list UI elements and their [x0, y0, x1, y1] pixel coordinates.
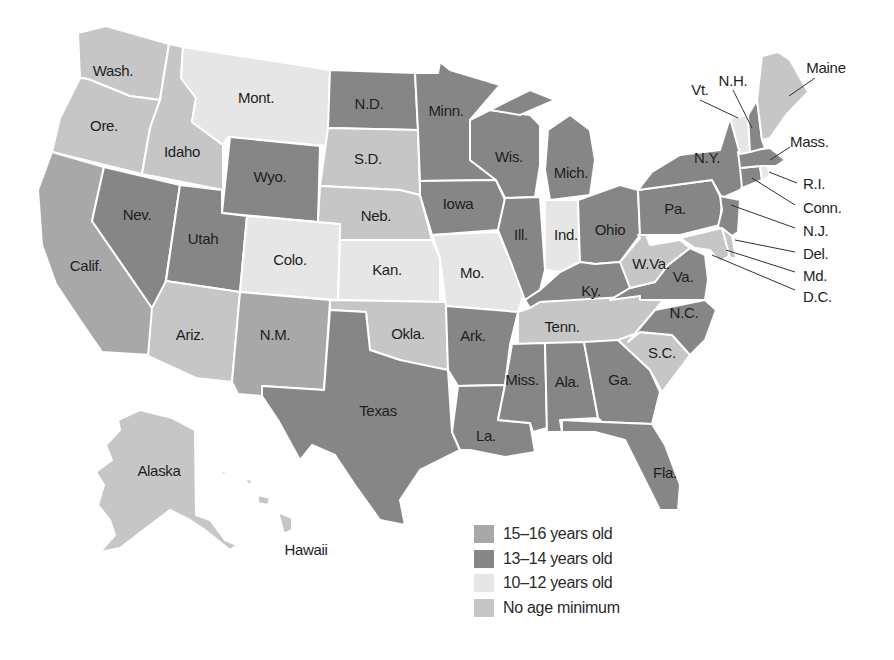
- legend-swatch: [474, 599, 494, 617]
- label-nm: N.M.: [260, 326, 290, 343]
- label-ala: Ala.: [555, 373, 580, 390]
- label-sc: S.C.: [648, 344, 676, 361]
- state-hawaii[interactable]: [220, 470, 292, 534]
- label-ore: Ore.: [90, 117, 118, 134]
- label-ny: N.Y.: [694, 149, 720, 166]
- legend: 15–16 years old 13–14 years old 10–12 ye…: [474, 522, 620, 620]
- state-conn[interactable]: [740, 166, 762, 188]
- legend-item-13-14: 13–14 years old: [474, 547, 620, 572]
- label-vt: Vt.: [691, 81, 708, 98]
- label-nd: N.D.: [355, 95, 384, 112]
- label-wyo: Wyo.: [254, 168, 287, 185]
- state-nm[interactable]: [232, 292, 330, 396]
- label-va: Va.: [673, 268, 694, 285]
- legend-swatch: [474, 525, 494, 543]
- label-nc: N.C.: [670, 304, 699, 321]
- label-minn: Minn.: [428, 102, 463, 119]
- label-mich: Mich.: [554, 164, 588, 181]
- label-ind: Ind.: [554, 226, 578, 243]
- label-wash: Wash.: [93, 62, 133, 79]
- label-pa: Pa.: [664, 200, 686, 217]
- legend-label: 13–14 years old: [503, 550, 612, 568]
- label-maine: Maine: [806, 59, 845, 76]
- label-del: Del.: [803, 245, 828, 262]
- label-idaho: Idaho: [164, 143, 200, 160]
- label-iowa: Iowa: [443, 195, 474, 212]
- label-ariz: Ariz.: [176, 326, 205, 343]
- label-texas: Texas: [359, 402, 397, 419]
- label-mo: Mo.: [460, 264, 484, 281]
- label-wis: Wis.: [495, 148, 523, 165]
- label-mass: Mass.: [790, 133, 829, 150]
- label-mont: Mont.: [238, 89, 274, 106]
- legend-item-no-minimum: No age minimum: [474, 596, 620, 621]
- label-ohio: Ohio: [595, 221, 626, 238]
- legend-label: No age minimum: [503, 599, 620, 617]
- label-ri: R.I.: [803, 175, 825, 192]
- label-ga: Ga.: [608, 371, 631, 388]
- label-hawaii: Hawaii: [284, 541, 327, 558]
- label-ky: Ky.: [581, 282, 601, 299]
- label-alaska: Alaska: [137, 462, 180, 479]
- state-maine[interactable]: [757, 52, 808, 140]
- label-calif: Calif.: [70, 257, 102, 274]
- label-tenn: Tenn.: [544, 318, 579, 335]
- label-md: Md.: [803, 267, 827, 284]
- legend-swatch: [474, 574, 494, 592]
- label-ill: Ill.: [514, 226, 528, 243]
- label-conn: Conn.: [803, 199, 842, 216]
- label-colo: Colo.: [273, 251, 307, 268]
- legend-swatch: [474, 550, 494, 568]
- label-nh: N.H.: [719, 72, 748, 89]
- legend-item-15-16: 15–16 years old: [474, 522, 620, 547]
- label-ark: Ark.: [460, 327, 485, 344]
- label-la: La.: [476, 427, 496, 444]
- state-alaska[interactable]: [96, 410, 237, 552]
- label-neb: Neb.: [361, 207, 392, 224]
- label-miss: Miss.: [505, 371, 539, 388]
- legend-label: 10–12 years old: [503, 574, 612, 592]
- label-fla: Fla.: [653, 464, 677, 481]
- label-dc: D.C.: [803, 288, 832, 305]
- label-kan: Kan.: [372, 261, 402, 278]
- legend-label: 15–16 years old: [503, 525, 612, 543]
- label-nev: Nev.: [123, 206, 152, 223]
- us-map: [0, 0, 894, 660]
- legend-item-10-12: 10–12 years old: [474, 571, 620, 596]
- label-utah: Utah: [188, 230, 219, 247]
- label-wva: W.Va.: [632, 255, 669, 272]
- label-nj: N.J.: [803, 222, 828, 239]
- state-ri[interactable]: [760, 166, 770, 180]
- label-okla: Okla.: [391, 325, 425, 342]
- label-sd: S.D.: [354, 150, 382, 167]
